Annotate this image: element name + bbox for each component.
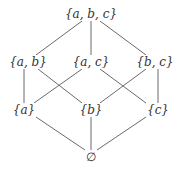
node-empty-set: ∅ [85,150,97,164]
edges-layer [0,0,177,174]
edge-abc-bc [100,21,146,55]
edge-abc-ab [36,21,82,55]
node-a: {a} [12,103,36,117]
node-bc: {b, c} [135,55,174,69]
node-b: {b} [79,103,104,117]
node-ac: {a, c} [72,55,111,69]
hasse-diagram: {a, b, c} {a, b} {a, c} {b, c} {a} {b} {… [0,0,177,174]
node-ab: {a, b} [8,55,48,69]
node-c: {c} [146,103,170,117]
edge-c-empty [97,117,146,150]
node-abc: {a, b, c} [64,7,118,21]
edge-a-empty [36,117,85,150]
